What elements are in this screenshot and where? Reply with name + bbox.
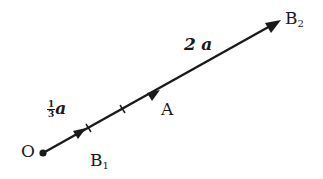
vector-label-two-a: 2 a bbox=[184, 34, 212, 54]
point-label-a: A bbox=[161, 99, 173, 119]
arrowhead-b2-icon bbox=[265, 20, 281, 33]
vector-lines bbox=[0, 0, 323, 179]
arrowhead-b1-icon bbox=[73, 128, 86, 139]
point-label-b1: B1 bbox=[90, 150, 109, 171]
arrowhead-a-icon bbox=[147, 90, 160, 101]
vector-diagram: O B1 A B2 13a 2 a bbox=[0, 0, 323, 179]
origin-dot bbox=[39, 149, 46, 156]
point-label-o: O bbox=[21, 141, 35, 161]
point-label-b2: B2 bbox=[285, 8, 304, 29]
vector-label-third-a: 13a bbox=[47, 98, 66, 119]
